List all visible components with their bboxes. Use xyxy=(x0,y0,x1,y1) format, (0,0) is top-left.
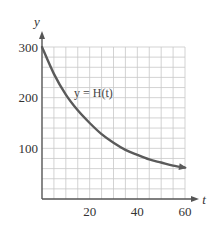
y-tick-label: 300 xyxy=(19,40,39,55)
tick-labels: 204060100200300 xyxy=(19,40,192,220)
y-axis-arrow-icon xyxy=(39,31,45,39)
x-tick-label: 20 xyxy=(83,204,96,219)
grid-lines xyxy=(42,47,185,199)
y-axis-label: y xyxy=(32,14,40,29)
x-axis-label: t xyxy=(202,192,206,207)
curve-label: y = H(t) xyxy=(74,86,113,100)
y-tick-label: 200 xyxy=(19,90,39,105)
y-tick-label: 100 xyxy=(19,141,39,156)
x-axis-arrow-icon xyxy=(191,196,199,202)
x-tick-label: 60 xyxy=(179,204,192,219)
chart: 204060100200300 y t y = H(t) xyxy=(0,0,217,225)
axes xyxy=(39,31,199,202)
x-tick-label: 40 xyxy=(131,204,144,219)
